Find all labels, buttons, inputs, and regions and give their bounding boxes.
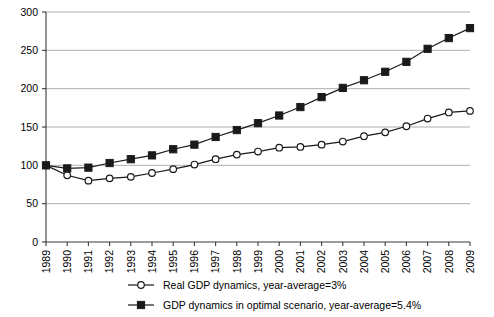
x-axis-tick-label: 1996: [188, 250, 200, 274]
data-point-circle: [276, 144, 283, 151]
data-point-square: [297, 103, 304, 110]
data-point-circle: [297, 144, 304, 151]
data-point-square: [339, 84, 346, 91]
data-point-circle: [212, 156, 219, 163]
x-axis-tick-label: 2007: [421, 250, 433, 274]
data-point-circle: [149, 170, 156, 177]
data-point-square: [127, 156, 134, 163]
x-axis-tick-label: 1993: [125, 250, 137, 274]
data-point-square: [191, 141, 198, 148]
data-point-square: [424, 45, 431, 52]
x-axis-tick-label: 1998: [231, 250, 243, 274]
data-point-circle: [170, 166, 177, 173]
y-axis-tick-label: 50: [26, 197, 38, 209]
data-point-circle: [64, 172, 71, 179]
data-point-square: [466, 25, 473, 32]
x-axis-tick-label: 2004: [358, 250, 370, 274]
chart-background: [0, 0, 494, 317]
chart-container: 050100150200250300 198919901991199219931…: [0, 0, 494, 317]
data-point-square: [403, 58, 410, 65]
x-axis-tick-label: 1992: [103, 250, 115, 274]
x-axis-tick-label: 2002: [315, 250, 327, 274]
data-point-circle: [85, 177, 92, 184]
data-point-circle: [106, 175, 113, 182]
data-point-circle: [234, 151, 241, 158]
data-point-square: [212, 133, 219, 140]
x-axis-tick-label: 2005: [379, 250, 391, 274]
data-point-circle: [446, 109, 453, 116]
data-point-square: [42, 162, 49, 169]
legend-label: Real GDP dynamics, year-average=3%: [163, 279, 346, 291]
data-point-circle: [424, 115, 431, 122]
data-point-circle: [128, 174, 135, 181]
data-point-circle: [340, 138, 347, 145]
y-axis-tick-label: 100: [20, 159, 38, 171]
x-axis-tick-label: 2003: [337, 250, 349, 274]
y-axis-tick-label: 250: [20, 44, 38, 56]
data-point-square: [445, 34, 452, 41]
data-point-square: [360, 77, 367, 84]
data-point-square: [148, 152, 155, 159]
legend-marker-circle: [138, 282, 145, 289]
data-point-circle: [361, 133, 368, 140]
data-point-square: [276, 112, 283, 119]
data-point-square: [106, 159, 113, 166]
gdp-dynamics-line-chart: 050100150200250300 198919901991199219931…: [0, 0, 494, 317]
data-point-circle: [382, 129, 389, 136]
x-axis-tick-label: 1991: [82, 250, 94, 274]
data-point-square: [64, 165, 71, 172]
data-point-square: [254, 120, 261, 127]
y-axis-tick-label: 200: [20, 82, 38, 94]
legend-item[interactable]: GDP dynamics in optimal scenario, year-a…: [128, 299, 421, 311]
legend-label: GDP dynamics in optimal scenario, year-a…: [163, 299, 421, 311]
x-axis-tick-label: 1997: [209, 250, 221, 274]
y-axis-tick-label: 0: [32, 236, 38, 248]
x-axis-tick-label: 2001: [294, 250, 306, 274]
y-axis-tick-label: 300: [20, 6, 38, 18]
data-point-circle: [191, 161, 198, 168]
x-axis-tick-label: 2009: [464, 250, 476, 274]
data-point-circle: [403, 123, 410, 130]
x-axis-tick-label: 1990: [61, 250, 73, 274]
x-axis-tick-label: 2008: [443, 250, 455, 274]
data-point-square: [233, 126, 240, 133]
data-point-square: [170, 146, 177, 153]
x-axis-tick-label: 2000: [273, 250, 285, 274]
data-point-circle: [255, 148, 262, 155]
x-axis-tick-label: 1995: [167, 250, 179, 274]
x-axis-tick-label: 1999: [252, 250, 264, 274]
data-point-square: [382, 68, 389, 75]
data-point-square: [318, 94, 325, 101]
x-axis-tick-label: 2006: [400, 250, 412, 274]
data-point-circle: [318, 141, 325, 148]
data-point-square: [85, 164, 92, 171]
x-axis-tick-label: 1989: [40, 250, 52, 274]
legend-marker-square: [137, 301, 144, 308]
data-point-circle: [467, 108, 474, 115]
y-axis-tick-label: 150: [20, 121, 38, 133]
x-axis-tick-label: 1994: [146, 250, 158, 274]
